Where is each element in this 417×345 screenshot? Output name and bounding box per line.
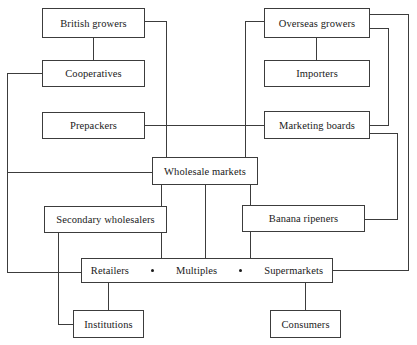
wire-marketing-boards-to-ripeners (365, 133, 397, 219)
node-marketing-boards[interactable]: Marketing boards (264, 111, 370, 139)
node-label: Prepackers (70, 120, 117, 131)
node-label: Banana ripeners (269, 213, 338, 224)
retail-label-supermarkets: Supermarkets (264, 265, 323, 276)
retail-label-retailers: Retailers (91, 265, 129, 276)
node-label: Marketing boards (279, 120, 355, 131)
bullet-separator-icon (151, 269, 154, 272)
wire-secondary-to-institutions (58, 233, 73, 324)
node-institutions[interactable]: Institutions (73, 310, 144, 338)
node-label: Wholesale markets (164, 166, 246, 177)
node-retailers-multiples-supermarkets[interactable]: Retailers Multiples Supermarkets (81, 258, 333, 283)
node-label: Consumers (281, 319, 329, 330)
node-banana-ripeners[interactable]: Banana ripeners (242, 205, 365, 232)
bullet-separator-icon (239, 269, 242, 272)
wire-overseas-to-marketing-boards (370, 28, 388, 125)
node-importers[interactable]: Importers (264, 60, 370, 87)
node-cooperatives[interactable]: Cooperatives (42, 60, 145, 87)
node-british-growers[interactable]: British growers (42, 8, 145, 38)
node-label: Cooperatives (65, 68, 122, 79)
flowchart-diagram: British growers Overseas growers Coopera… (0, 0, 417, 345)
node-label: British growers (60, 18, 127, 29)
node-label: Overseas growers (279, 18, 356, 29)
node-prepackers[interactable]: Prepackers (42, 112, 145, 139)
node-overseas-growers[interactable]: Overseas growers (264, 8, 370, 38)
node-label: Secondary wholesalers (56, 214, 155, 225)
node-wholesale-markets[interactable]: Wholesale markets (152, 157, 258, 185)
wire-british-to-wholesale (145, 21, 166, 157)
node-label: Importers (296, 68, 338, 79)
node-consumers[interactable]: Consumers (270, 310, 341, 338)
retail-label-multiples: Multiples (176, 265, 217, 276)
node-secondary-wholesalers[interactable]: Secondary wholesalers (44, 206, 167, 233)
node-label: Institutions (84, 319, 132, 330)
wire-overseas-to-wholesale (245, 21, 264, 157)
